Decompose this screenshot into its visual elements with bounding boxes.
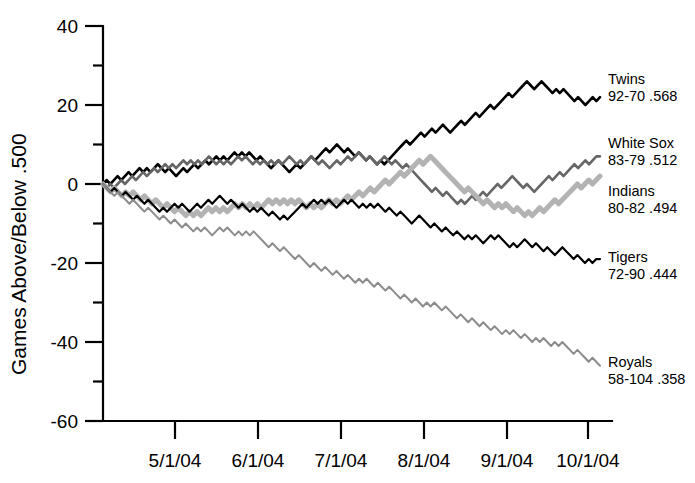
baseball-standings-line-chart: Games Above/Below .500 40 20 0 -20 -40 -…	[0, 0, 695, 483]
series-label-tigers-name: Tigers	[608, 249, 648, 265]
series-label-twins-record: 92-70 .568	[608, 88, 677, 104]
series-label-indians-name: Indians	[608, 183, 655, 199]
y-label-40: 40	[57, 16, 78, 37]
series-label-tigers-record: 72-90 .444	[608, 266, 677, 282]
series-label-twins: Twins 92-70 .568	[608, 71, 677, 104]
x-label-may: 5/1/04	[149, 450, 202, 471]
series-line-twins	[103, 81, 600, 184]
x-label-oct: 10/1/04	[556, 450, 620, 471]
chart-page: Games Above/Below .500 40 20 0 -20 -40 -…	[0, 0, 695, 483]
series-label-indians: Indians 80-82 .494	[608, 183, 677, 216]
x-label-jun: 6/1/04	[232, 450, 285, 471]
y-label-neg60: -60	[51, 411, 78, 432]
series-label-white-sox-name: White Sox	[608, 135, 675, 151]
series-label-royals-name: Royals	[608, 354, 652, 370]
series-label-twins-name: Twins	[608, 71, 645, 87]
y-label-neg40: -40	[51, 332, 78, 353]
y-label-0: 0	[67, 174, 78, 195]
y-label-20: 20	[57, 95, 78, 116]
y-axis-title: Games Above/Below .500	[7, 133, 30, 375]
x-label-jul: 7/1/04	[315, 450, 368, 471]
series-label-royals: Royals 58-104 .358	[608, 354, 685, 387]
x-label-sep: 9/1/04	[481, 450, 534, 471]
series-label-royals-record: 58-104 .358	[608, 371, 685, 387]
series-label-white-sox-record: 83-79 .512	[608, 152, 677, 168]
series-label-tigers: Tigers 72-90 .444	[608, 249, 677, 282]
series-line-white-sox	[103, 152, 600, 203]
series-label-white-sox: White Sox 83-79 .512	[608, 135, 677, 168]
x-label-aug: 8/1/04	[398, 450, 451, 471]
series-layer	[103, 81, 600, 365]
y-label-neg20: -20	[51, 253, 78, 274]
series-label-indians-record: 80-82 .494	[608, 200, 677, 216]
